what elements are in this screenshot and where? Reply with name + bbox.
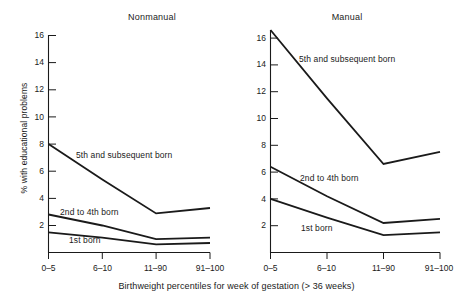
right-ytick-16: 16	[244, 33, 266, 43]
right-series-fifth-born	[271, 30, 441, 164]
right-label-second-to-fourth: 2nd to 4th born	[300, 173, 359, 183]
right-xtick-0-5: 0–5	[248, 263, 293, 273]
right-ytick-2: 2	[244, 220, 266, 230]
right-series-first-born	[271, 199, 441, 235]
figure-canvas: Nonmanual Manual % with educational prob…	[0, 0, 473, 301]
right-xtick-91-100: 91–100	[415, 263, 463, 273]
right-x-ticks	[271, 253, 441, 260]
right-ytick-6: 6	[244, 167, 266, 177]
right-xtick-6-10: 6–10	[304, 263, 349, 273]
right-y-ticks	[271, 38, 279, 226]
right-xtick-11-90: 11–90	[361, 263, 406, 273]
right-ytick-14: 14	[244, 59, 266, 69]
right-label-first-born: 1st born	[301, 223, 333, 233]
right-ytick-12: 12	[244, 86, 266, 96]
right-ytick-8: 8	[244, 140, 266, 150]
right-label-fifth-born: 5th and subsequent born	[299, 54, 395, 64]
right-ytick-4: 4	[244, 194, 266, 204]
right-ytick-10: 10	[244, 113, 266, 123]
right-panel-plot	[0, 0, 473, 301]
